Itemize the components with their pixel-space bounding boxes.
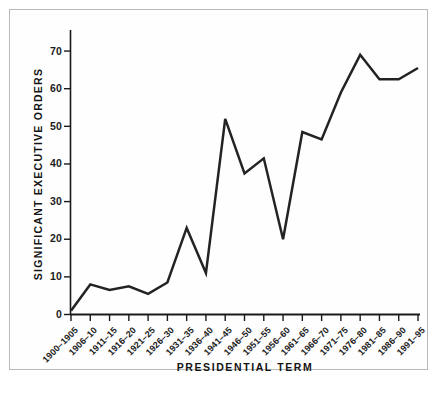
figure-container: SIGNIFICANT EXECUTIVE ORDERS 0 10 20 30 … <box>0 0 439 399</box>
data-series-line <box>71 55 418 311</box>
x-axis-title: PRESIDENTIAL TERM <box>70 361 420 373</box>
plot-area: SIGNIFICANT EXECUTIVE ORDERS 0 10 20 30 … <box>0 0 439 399</box>
x-tick-marks <box>71 315 418 322</box>
